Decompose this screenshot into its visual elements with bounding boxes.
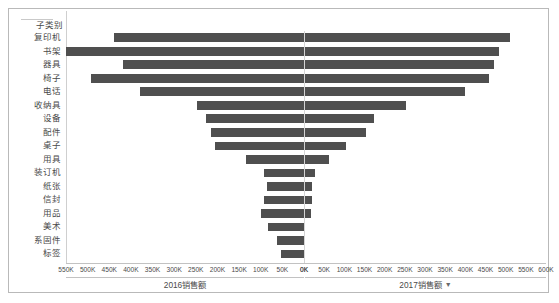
category-label[interactable]: 信封 — [9, 193, 61, 207]
chart-row: 系固件 — [9, 234, 548, 248]
row-plot-area — [66, 126, 548, 140]
chart-row: 收纳具 — [9, 99, 548, 113]
bar-segment[interactable] — [197, 101, 406, 110]
x-tick-label: 600K — [538, 265, 553, 274]
row-plot-area — [66, 58, 548, 72]
bar-segment[interactable] — [91, 74, 489, 83]
chart-row: 配件 — [9, 126, 548, 140]
x-tick-label: 250K — [188, 265, 203, 274]
x-tick-label: 50K — [318, 265, 330, 274]
chart-row: 美术 — [9, 220, 548, 234]
category-label[interactable]: 系固件 — [9, 234, 61, 248]
category-label[interactable]: 收纳具 — [9, 99, 61, 113]
bar-segment[interactable] — [268, 223, 305, 232]
x-tick-label: 450K — [102, 265, 117, 274]
left-pane-divider — [66, 277, 304, 278]
category-axis-header[interactable]: 子类别 — [13, 20, 63, 31]
row-plot-area — [66, 99, 548, 113]
row-plot-area — [66, 139, 548, 153]
category-label[interactable]: 装订机 — [9, 166, 61, 180]
x-tick-label: 200K — [377, 265, 392, 274]
chart-row: 桌子 — [9, 139, 548, 153]
bar-segment[interactable] — [246, 155, 329, 164]
row-plot-area — [66, 180, 548, 194]
category-label[interactable]: 配件 — [9, 126, 61, 140]
chart-row: 椅子 — [9, 72, 548, 86]
category-label[interactable]: 用具 — [9, 153, 61, 167]
bar-segment[interactable] — [267, 182, 312, 191]
x-tick-label: 550K — [58, 265, 73, 274]
category-label[interactable]: 美术 — [9, 220, 61, 234]
x-tick-label: 50K — [276, 265, 288, 274]
row-plot-area — [66, 234, 548, 248]
chart-row: 标签 — [9, 247, 548, 261]
chart-row: 用具 — [9, 153, 548, 167]
category-label[interactable]: 电话 — [9, 85, 61, 99]
x-tick-label: 500K — [498, 265, 513, 274]
bar-segment[interactable] — [277, 236, 304, 245]
row-plot-area — [66, 220, 548, 234]
row-plot-area — [66, 72, 548, 86]
x-tick-label: 300K — [417, 265, 432, 274]
category-label[interactable]: 桌子 — [9, 139, 61, 153]
left-axis-title[interactable]: 2016销售额 — [66, 279, 304, 291]
right-axis-title[interactable]: 2017销售额▼ — [305, 279, 546, 292]
category-label[interactable]: 书架 — [9, 45, 61, 59]
row-plot-area — [66, 112, 548, 126]
x-tick-label: 350K — [145, 265, 160, 274]
left-axis-title-label: 2016销售额 — [164, 280, 206, 290]
category-label[interactable]: 设备 — [9, 112, 61, 126]
x-tick-label: 0K — [300, 265, 308, 274]
x-tick-label: 250K — [397, 265, 412, 274]
row-plot-area — [66, 193, 548, 207]
row-plot-area — [66, 31, 548, 45]
row-plot-area — [66, 45, 548, 59]
chart-frame: 子类别 复印机书架器具椅子电话收纳具设备配件桌子用具装订机纸张信封用品美术系固件… — [8, 8, 549, 293]
x-tick-label: 450K — [478, 265, 493, 274]
bar-segment[interactable] — [66, 47, 499, 56]
x-axis-line — [66, 263, 546, 264]
bar-segment[interactable] — [264, 169, 315, 178]
category-label[interactable]: 椅子 — [9, 72, 61, 86]
right-pane-divider — [305, 277, 546, 278]
bar-segment[interactable] — [140, 87, 465, 96]
category-label[interactable]: 标签 — [9, 247, 61, 261]
bar-segment[interactable] — [114, 33, 510, 42]
row-plot-area — [66, 247, 548, 261]
x-tick-label: 400K — [458, 265, 473, 274]
x-tick-label: 350K — [437, 265, 452, 274]
bar-segment[interactable] — [281, 250, 304, 259]
category-label[interactable]: 复印机 — [9, 31, 61, 45]
chart-row: 信封 — [9, 193, 548, 207]
category-label[interactable]: 用品 — [9, 207, 61, 221]
chart-rows: 复印机书架器具椅子电话收纳具设备配件桌子用具装订机纸张信封用品美术系固件标签 — [9, 31, 548, 261]
x-tick-label: 550K — [518, 265, 533, 274]
sort-descending-icon[interactable]: ▼ — [445, 279, 452, 291]
x-tick-label: 100K — [337, 265, 352, 274]
x-tick-label: 300K — [166, 265, 181, 274]
x-tick-label: 500K — [80, 265, 95, 274]
category-label[interactable]: 器具 — [9, 58, 61, 72]
x-tick-label: 150K — [357, 265, 372, 274]
row-plot-area — [66, 166, 548, 180]
center-zero-axis — [304, 31, 305, 263]
chart-row: 用品 — [9, 207, 548, 221]
chart-row: 复印机 — [9, 31, 548, 45]
bar-segment[interactable] — [206, 114, 374, 123]
bar-segment[interactable] — [123, 60, 494, 69]
bar-segment[interactable] — [211, 128, 366, 137]
chart-row: 电话 — [9, 85, 548, 99]
chart-row: 纸张 — [9, 180, 548, 194]
chart-row: 书架 — [9, 45, 548, 59]
chart-row: 装订机 — [9, 166, 548, 180]
x-tick-label: 100K — [253, 265, 268, 274]
x-tick-label: 200K — [210, 265, 225, 274]
row-plot-area — [66, 85, 548, 99]
row-plot-area — [66, 153, 548, 167]
chart-row: 设备 — [9, 112, 548, 126]
category-label[interactable]: 纸张 — [9, 180, 61, 194]
right-axis-title-label: 2017销售额 — [399, 280, 441, 290]
chart-row: 器具 — [9, 58, 548, 72]
bar-segment[interactable] — [215, 142, 346, 151]
x-tick-label: 400K — [123, 265, 138, 274]
